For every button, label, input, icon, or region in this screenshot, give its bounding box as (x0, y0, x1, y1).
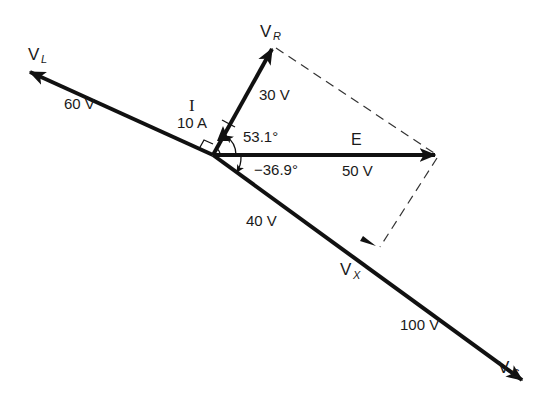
phasor-vc-arrow (213, 155, 522, 380)
vx-magnitude: 40 V (246, 212, 277, 229)
angle-vr-label: 53.1° (243, 128, 278, 145)
vr-subscript: R (273, 30, 281, 42)
angle-arc-36 (237, 157, 241, 172)
i-magnitude: 10 A (177, 114, 207, 131)
vc-subscript: C (511, 367, 519, 379)
phasor-diagram: V L 60 V V R 30 V I 10 A 53.1° E 50 V −3… (0, 0, 555, 399)
vl-symbol: V (28, 45, 40, 64)
vl-magnitude: 60 V (64, 95, 95, 112)
dashed-line-e-to-vx (380, 158, 437, 247)
label-vc: V C (498, 358, 519, 379)
vx-symbol: V (340, 260, 352, 279)
vc-symbol: V (498, 358, 510, 377)
i-symbol: I (189, 96, 195, 115)
label-vr: V R (260, 22, 281, 42)
vc-magnitude: 100 V (400, 316, 439, 333)
vx-subscript: X (352, 269, 361, 281)
phasor-vx-arrowhead (360, 236, 376, 246)
vl-subscript: L (41, 53, 47, 65)
label-vx: V X (340, 260, 361, 281)
e-symbol: E (351, 131, 362, 148)
vr-symbol: V (260, 22, 272, 41)
e-magnitude: 50 V (342, 162, 373, 179)
angle-vx-label: −36.9° (254, 161, 298, 178)
label-vl: V L (28, 45, 47, 65)
vr-magnitude: 30 V (259, 86, 290, 103)
